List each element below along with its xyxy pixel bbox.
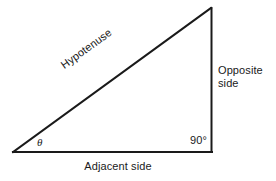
hypotenuse-line — [13, 8, 211, 152]
triangle-shape — [0, 0, 276, 181]
theta-angle-label: θ — [37, 136, 43, 149]
right-angle-label: 90° — [0, 134, 207, 147]
opposite-side-label-line2: side — [218, 77, 239, 89]
opposite-side-label: Oppositeside — [218, 64, 263, 89]
adjacent-side-label: Adjacent side — [0, 160, 236, 173]
triangle-diagram: Hypotenuse Oppositeside Adjacent side 90… — [0, 0, 276, 181]
opposite-side-label-line1: Opposite — [218, 64, 263, 76]
